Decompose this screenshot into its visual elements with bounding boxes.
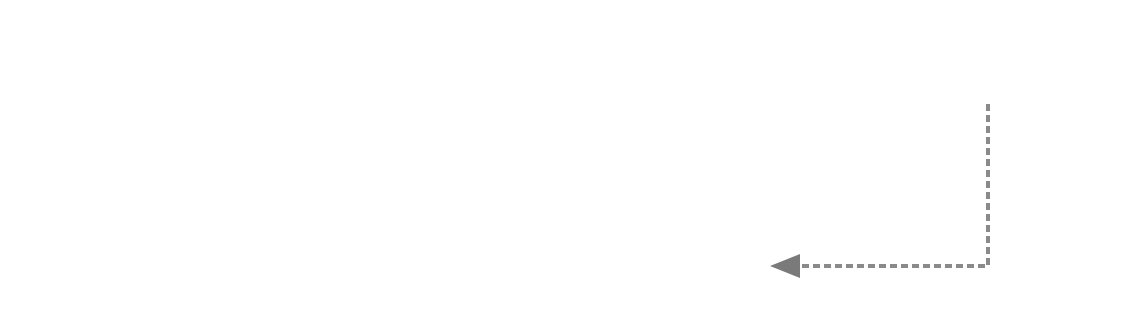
- arrow-connector: [0, 0, 1123, 331]
- arrow-dashed-path: [800, 104, 988, 266]
- arrow-head: [770, 254, 800, 278]
